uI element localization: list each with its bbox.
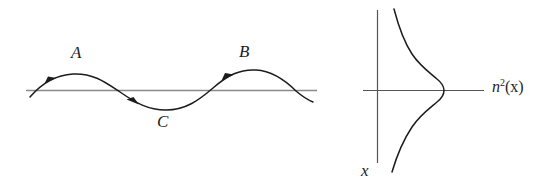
refractive-index-profile-panel <box>363 9 484 172</box>
axis-label-n-squared-of-x: n2(x) <box>492 79 524 95</box>
physics-figure: A B C x n2(x) <box>0 0 558 192</box>
axis-label-n: n <box>492 78 500 95</box>
axis-label-x: x <box>361 162 369 179</box>
ray-trajectory-panel <box>26 70 317 110</box>
label-B: B <box>239 43 249 60</box>
figure-canvas <box>0 0 558 192</box>
axis-label-argument: (x) <box>505 78 524 95</box>
label-C: C <box>157 113 168 130</box>
label-A: A <box>71 44 81 61</box>
